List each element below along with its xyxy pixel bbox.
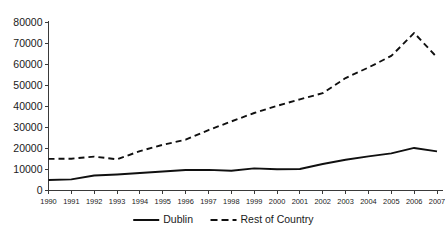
x-tick-label: 1991 (63, 197, 79, 206)
chart-legend: DublinRest of Country (133, 213, 314, 225)
series-lines (49, 33, 438, 180)
series-rest-of-country (49, 33, 438, 159)
legend-label-rest-of-country: Rest of Country (241, 213, 315, 225)
y-tick-label: 20000 (13, 142, 42, 154)
x-tick-label: 2001 (292, 197, 308, 206)
y-tick-label: 70000 (13, 37, 42, 49)
y-tick-label: 30000 (13, 121, 42, 133)
x-tick-label: 1995 (155, 197, 171, 206)
x-tick-label: 1994 (132, 197, 148, 206)
x-tick-label: 1993 (109, 197, 125, 206)
y-tick-label: 10000 (13, 163, 42, 175)
x-tick-label: 1990 (40, 197, 56, 206)
series-dublin (49, 148, 438, 180)
x-tick-label: 2006 (406, 197, 422, 206)
line-chart: 0100002000030000400005000060000700008000… (0, 0, 445, 240)
x-tick-label: 2007 (429, 197, 445, 206)
x-tick-label: 2002 (315, 197, 331, 206)
y-axis: 0100002000030000400005000060000700008000… (13, 16, 48, 197)
legend-label-dublin: Dublin (163, 213, 193, 225)
x-tick-label: 2000 (269, 197, 285, 206)
x-tick-label: 2005 (383, 197, 399, 206)
y-tick-label: 50000 (13, 79, 42, 91)
x-tick-label: 1992 (86, 197, 102, 206)
x-tick-label: 1996 (177, 197, 193, 206)
y-tick-label: 80000 (13, 16, 42, 28)
y-tick-label: 40000 (13, 100, 42, 112)
x-tick-label: 2003 (337, 197, 353, 206)
y-tick-label: 0 (37, 184, 43, 196)
x-tick-label: 1997 (200, 197, 216, 206)
chart-canvas: 0100002000030000400005000060000700008000… (0, 0, 445, 240)
y-tick-label: 60000 (13, 58, 42, 70)
x-axis: 1990199119921993199419951996199719981999… (40, 191, 445, 206)
x-tick-label: 1999 (246, 197, 262, 206)
x-tick-label: 2004 (360, 197, 376, 206)
x-tick-label: 1998 (223, 197, 239, 206)
